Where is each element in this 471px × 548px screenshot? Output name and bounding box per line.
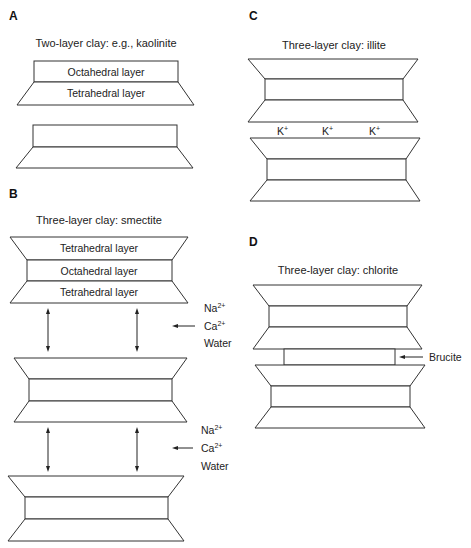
panel-d-title: Three-layer clay: chlorite xyxy=(278,264,398,276)
tetrahedral-sheet xyxy=(253,327,422,349)
octahedral-sheet xyxy=(29,379,172,401)
clay-structure-diagram: A Two-layer clay: e.g., kaolinite Octahe… xyxy=(0,0,471,548)
tetrahedral-sheet xyxy=(8,476,184,497)
brucite-label: Brucite xyxy=(429,351,462,363)
octahedral-sheet xyxy=(33,125,177,147)
double-arrow-icon xyxy=(135,427,139,472)
panel-label-d: D xyxy=(249,235,258,249)
octahedral-sheet xyxy=(25,497,168,519)
tetrahedral-sheet xyxy=(14,401,187,422)
water-label: Water xyxy=(204,337,232,349)
octahedral-sheet xyxy=(269,306,407,327)
tetrahedral-layer-label: Tetrahedral layer xyxy=(67,87,146,99)
octahedral-layer-label: Octahedral layer xyxy=(60,265,138,277)
octahedral-sheet xyxy=(267,159,406,180)
left-arrow-icon xyxy=(172,446,193,450)
tetrahedral-sheet xyxy=(255,365,425,386)
double-arrow-icon xyxy=(46,427,50,472)
tetrahedral-sheet xyxy=(250,138,420,159)
octahedral-layer-label: Octahedral layer xyxy=(67,66,145,78)
panel-b: B Three-layer clay: smectite Tetrahedral… xyxy=(8,187,232,541)
panel-label-c: C xyxy=(249,9,258,23)
tetrahedral-sheet xyxy=(253,285,422,306)
left-arrow-icon xyxy=(399,355,423,359)
potassium-ion-label: K+ xyxy=(277,125,288,137)
left-arrow-icon xyxy=(172,324,195,328)
potassium-ion-label: K+ xyxy=(369,125,380,137)
tetrahedral-sheet xyxy=(248,100,418,122)
panel-c: C Three-layer clay: illite K+ K+ K+ xyxy=(248,9,420,201)
panel-a: A Two-layer clay: e.g., kaolinite Octahe… xyxy=(9,9,194,168)
tetrahedral-sheet xyxy=(255,407,425,428)
tetrahedral-layer-label: Tetrahedral layer xyxy=(60,242,139,254)
double-arrow-icon xyxy=(135,308,139,352)
panel-b-title: Three-layer clay: smectite xyxy=(36,214,162,226)
octahedral-sheet xyxy=(265,79,403,100)
panel-label-a: A xyxy=(9,9,18,23)
panel-a-title: Two-layer clay: e.g., kaolinite xyxy=(35,37,176,49)
tetrahedral-sheet xyxy=(8,519,184,541)
tetrahedral-sheet xyxy=(250,180,420,201)
water-label: Water xyxy=(201,460,229,472)
tetrahedral-sheet xyxy=(248,59,418,79)
calcium-ion-label: Ca2+ xyxy=(201,442,222,454)
sodium-ion-label: Na2+ xyxy=(201,424,222,436)
panel-d: D Three-layer clay: chlorite Brucite xyxy=(249,235,462,428)
brucite-layer xyxy=(284,349,395,365)
double-arrow-icon xyxy=(46,308,50,352)
tetrahedral-sheet xyxy=(16,147,193,168)
panel-label-b: B xyxy=(9,187,18,201)
octahedral-sheet xyxy=(271,386,410,407)
potassium-ion-label: K+ xyxy=(322,125,333,137)
calcium-ion-label: Ca2+ xyxy=(204,320,225,332)
tetrahedral-sheet xyxy=(14,358,187,379)
tetrahedral-layer-label: Tetrahedral layer xyxy=(60,286,139,298)
sodium-ion-label: Na2+ xyxy=(204,302,225,314)
panel-c-title: Three-layer clay: illite xyxy=(282,39,386,51)
